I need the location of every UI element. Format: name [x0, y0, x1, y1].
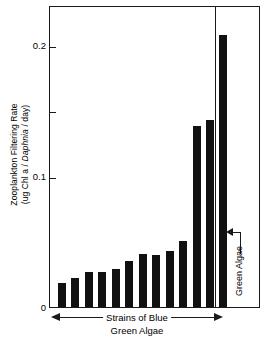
bar-11 [193, 126, 201, 307]
x-axis-caption-line2: Green Algae [49, 325, 225, 336]
bar-7 [139, 254, 147, 307]
bar-4 [98, 272, 106, 307]
x-axis-range-arrow: Strains of Blue [49, 311, 225, 324]
group-separator-line [215, 7, 216, 307]
x-axis-caption: Strains of Blue Green Algae [49, 311, 225, 336]
bar-2 [71, 278, 79, 307]
range-arrow-right-icon [214, 313, 223, 321]
bar-12 [206, 120, 214, 307]
bar-13 [219, 35, 227, 307]
y-tick-label-0: 0 [22, 303, 46, 313]
bar-3 [85, 272, 93, 307]
bar-9 [166, 251, 174, 307]
y-axis-title-line1: Zooplankton Filtering Rate [9, 103, 20, 205]
green-algae-label: Green Algae [234, 246, 244, 296]
y-tick-label-0.2: 0.2 [22, 41, 46, 51]
bar-8 [152, 255, 160, 307]
bar-10 [179, 241, 187, 307]
green-algae-callout: Green Algae [228, 224, 252, 320]
range-arrow-left-icon [51, 313, 60, 321]
bar-chart-figure: Zooplankton Filtering Rate (ug Chl a / D… [0, 0, 265, 351]
x-axis-caption-line1: Strains of Blue [103, 312, 171, 323]
bar-1 [58, 283, 66, 307]
bar-5 [112, 269, 120, 307]
bar-6 [125, 261, 133, 307]
y-tick-label-0.1: 0.1 [22, 172, 46, 182]
y-axis-tick-labels: 0.2 0.1 0 [20, 0, 46, 351]
